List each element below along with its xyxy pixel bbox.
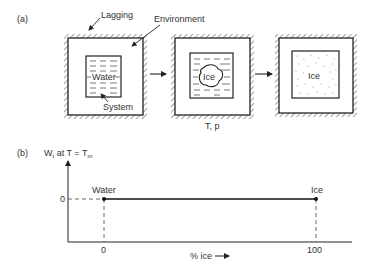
data-point-water: [102, 197, 106, 201]
system-label: System: [103, 102, 133, 112]
container-water: Water System: [64, 34, 147, 119]
conditions-label: T, p: [205, 121, 220, 131]
data-point-ice: [314, 197, 318, 201]
lagging-label: Lagging: [101, 10, 133, 20]
ice-point-label: Ice: [311, 185, 323, 195]
container-mixed: Ice T, p: [171, 34, 254, 131]
panel-b-label: (b): [17, 148, 28, 158]
environment-label: Environment: [154, 14, 205, 24]
y-tick-0: 0: [60, 194, 65, 204]
ice-label: Ice: [308, 71, 320, 81]
x-tick-100: 100: [307, 245, 322, 255]
y-axis-label: Wt at T = Tm: [44, 148, 92, 159]
x-tick-0: 0: [101, 245, 106, 255]
diagram-canvas: (a) Water System Lagging Environment: [0, 0, 373, 271]
water-point-label: Water: [92, 185, 116, 195]
x-axis-label: % ice: [190, 251, 212, 261]
ice-chunk-label: Ice: [203, 72, 215, 82]
panel-a-label: (a): [17, 14, 28, 24]
container-ice: Ice: [275, 34, 357, 117]
water-label: Water: [92, 72, 116, 82]
lagging-arrow-icon: [89, 18, 100, 30]
